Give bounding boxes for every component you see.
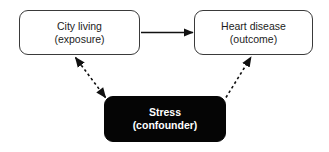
- node-outcome-label-primary: Heart disease: [221, 20, 286, 33]
- node-confounder-label-secondary: (confounder): [133, 119, 198, 132]
- node-confounder-label-primary: Stress: [149, 106, 181, 119]
- confounding-diagram: City living (exposure) Heart disease (ou…: [0, 0, 329, 152]
- edge-confounder-exposure: [76, 58, 106, 98]
- node-outcome-label-secondary: (outcome): [230, 33, 277, 46]
- node-exposure-label-secondary: (exposure): [54, 33, 104, 46]
- node-exposure-label-primary: City living: [57, 20, 102, 33]
- node-confounder[interactable]: Stress (confounder): [104, 96, 226, 142]
- node-exposure[interactable]: City living (exposure): [19, 10, 140, 55]
- edge-confounder-to-outcome: [226, 57, 251, 98]
- node-outcome[interactable]: Heart disease (outcome): [194, 10, 313, 55]
